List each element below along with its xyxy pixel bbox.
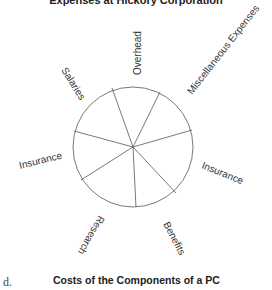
next-chart-title: Costs of the Components of a PC: [53, 274, 220, 286]
label-overhead: Overhead: [132, 31, 143, 75]
label-insurance-right: Insurance: [200, 160, 245, 187]
pie-divider: [133, 147, 176, 193]
pie-chart: Overhead Miscellaneous Expenses Insuranc…: [0, 0, 272, 270]
pie-divider: [74, 131, 133, 147]
label-salaries: Salaries: [59, 65, 87, 101]
pie-divider: [112, 88, 133, 147]
pie-divider: [81, 147, 133, 180]
pie-divider: [133, 147, 136, 207]
figure-letter: d.: [3, 275, 12, 290]
label-research: Research: [76, 214, 107, 257]
pie-divider: [133, 130, 192, 147]
label-insurance-left: Insurance: [18, 150, 64, 171]
label-misc: Miscellaneous Expenses: [185, 3, 261, 97]
label-benefits: Benefits: [161, 220, 188, 257]
pie-divider: [133, 92, 160, 147]
